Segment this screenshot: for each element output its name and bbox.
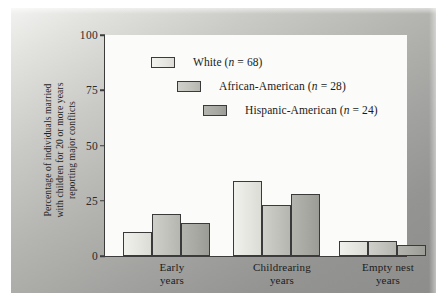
x-category-empty-nest-years-line-2: years — [343, 274, 433, 287]
y-tick-label-50: 50 — [86, 140, 98, 152]
legend-label-white-prefix: White ( — [193, 56, 229, 68]
legend-swatch-hispanic-american — [203, 105, 227, 116]
bar-childrearing-years-african-american — [262, 205, 291, 256]
x-category-empty-nest-years-line-1: Empty nest — [343, 261, 433, 274]
y-axis-title-line-3: reporting major conflicts — [66, 55, 78, 245]
x-category-label-childrearing-years: Childrearing years — [237, 261, 327, 287]
legend-label-hispanic-american: Hispanic-American (n = 24) — [245, 104, 378, 116]
legend-label-hispanic-american-suffix: = 24) — [350, 104, 378, 116]
legend-swatch-white — [151, 57, 175, 68]
legend-label-white-suffix: = 68) — [234, 56, 262, 68]
x-category-childrearing-years-line-2: years — [237, 274, 327, 287]
bar-empty-nest-years-african-american — [368, 241, 397, 256]
bar-childrearing-years-hispanic-american — [291, 194, 320, 256]
y-axis-title: Percentage of individuals married with c… — [42, 0, 82, 55]
y-tick-label-0: 0 — [92, 250, 98, 262]
bar-empty-nest-years-white — [339, 241, 368, 256]
chart-figure: Percentage of individuals married with c… — [0, 0, 447, 301]
legend-label-white: White (n = 68) — [193, 56, 263, 68]
x-category-early-years-line-2: years — [127, 274, 217, 287]
bar-early-years-white — [123, 232, 152, 256]
x-category-early-years-line-1: Early — [127, 261, 217, 274]
plot-area: 100 75 50 25 0 — [104, 35, 407, 257]
y-axis-title-line-2: with children for 20 or more years — [54, 55, 66, 245]
legend-item-white[interactable]: White (n = 68) — [151, 56, 263, 68]
legend-swatch-african-american — [177, 81, 201, 92]
legend-label-african-american-prefix: African-American ( — [219, 80, 312, 92]
legend-label-african-american-suffix: = 28) — [318, 80, 346, 92]
legend-item-african-american[interactable]: African-American (n = 28) — [177, 80, 346, 92]
legend-label-african-american: African-American (n = 28) — [219, 80, 346, 92]
x-category-label-early-years: Early years — [127, 261, 217, 287]
y-tick-label-100: 100 — [80, 29, 98, 41]
y-axis-title-line-1: Percentage of individuals married — [42, 55, 54, 245]
legend-label-hispanic-american-prefix: Hispanic-American ( — [245, 104, 344, 116]
x-category-childrearing-years-line-1: Childrearing — [237, 261, 327, 274]
bar-early-years-hispanic-american — [181, 223, 210, 256]
legend-item-hispanic-american[interactable]: Hispanic-American (n = 24) — [203, 104, 378, 116]
x-category-label-empty-nest-years: Empty nest years — [343, 261, 433, 287]
bar-early-years-african-american — [152, 214, 181, 256]
figure-panel: Percentage of individuals married with c… — [11, 8, 436, 293]
bar-childrearing-years-white — [233, 181, 262, 256]
y-tick-label-25: 25 — [86, 195, 98, 207]
y-tick-label-75: 75 — [86, 84, 98, 96]
bar-empty-nest-years-hispanic-american — [397, 245, 426, 256]
